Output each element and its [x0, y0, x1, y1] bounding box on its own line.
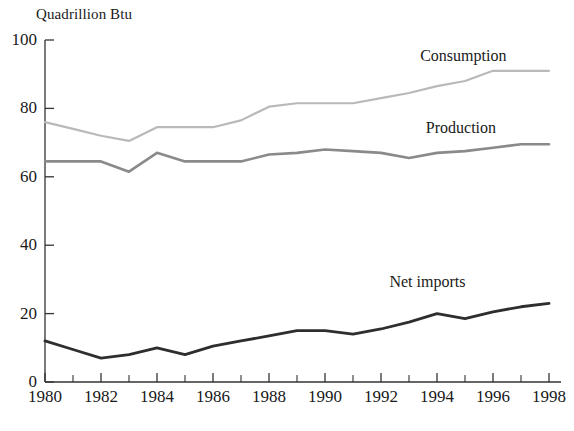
series-label-net-imports: Net imports — [389, 273, 465, 291]
series-label-production: Production — [426, 119, 496, 137]
series-line-production — [45, 144, 549, 171]
x-tick-label: 1986 — [185, 388, 241, 405]
y-tick-label: 20 — [3, 305, 37, 322]
x-tick-label: 1990 — [297, 388, 353, 405]
x-tick-label: 1988 — [241, 388, 297, 405]
series-line-net-imports — [45, 303, 549, 358]
y-tick-label: 40 — [3, 236, 37, 253]
x-tick-label: 1994 — [409, 388, 465, 405]
x-tick-label: 1992 — [353, 388, 409, 405]
x-tick-label: 1982 — [73, 388, 129, 405]
energy-line-chart: Quadrillion Btu 020406080100 19801982198… — [0, 0, 574, 431]
x-tick-label: 1998 — [521, 388, 574, 405]
x-tick-label: 1996 — [465, 388, 521, 405]
x-tick-label: 1984 — [129, 388, 185, 405]
y-tick-label: 80 — [3, 99, 37, 116]
y-tick-label: 60 — [3, 168, 37, 185]
y-tick-label: 100 — [3, 31, 37, 48]
series-label-consumption: Consumption — [420, 47, 506, 65]
x-tick-label: 1980 — [17, 388, 73, 405]
